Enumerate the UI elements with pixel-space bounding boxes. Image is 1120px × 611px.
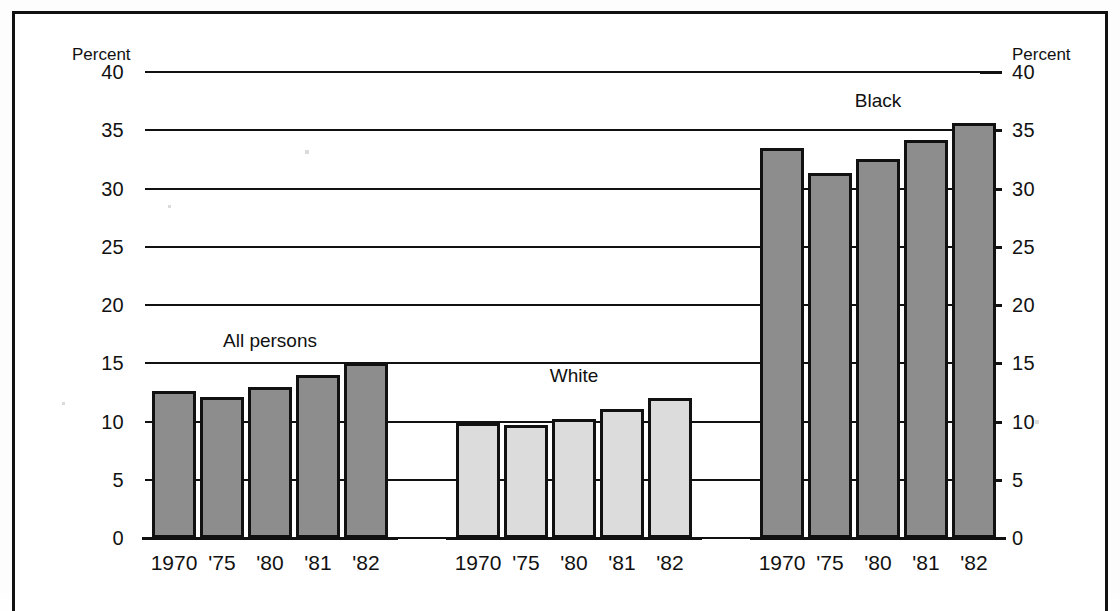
y-tick-label-right-35: 35 xyxy=(1012,120,1078,140)
x-tick-label: '82 xyxy=(630,552,710,573)
y-tick-label-left-15: 15 xyxy=(58,353,124,373)
y-tick-label-left-20: 20 xyxy=(58,295,124,315)
bar xyxy=(808,173,852,538)
y-tick-label-left-5: 5 xyxy=(58,470,124,490)
bar xyxy=(600,409,644,538)
scan-speck-0 xyxy=(305,150,309,154)
x-tick-label: '82 xyxy=(934,552,1014,573)
y-tick-label-left-0: 0 xyxy=(58,528,124,548)
bar xyxy=(760,148,804,538)
bar xyxy=(296,375,340,538)
gridline-40 xyxy=(145,71,980,73)
y-tick-label-left-25: 25 xyxy=(58,237,124,257)
bar xyxy=(504,425,548,538)
y-tick-label-right-0: 0 xyxy=(1012,528,1078,548)
bar xyxy=(856,159,900,538)
group-label-0: All persons xyxy=(170,331,370,350)
gridline-15 xyxy=(145,362,980,364)
gridline-30 xyxy=(145,188,980,190)
gridline-35 xyxy=(145,129,980,131)
percent-caption-left: Percent xyxy=(72,46,131,63)
y-tick-label-right-30: 30 xyxy=(1012,179,1078,199)
scan-speck-4 xyxy=(1035,420,1039,424)
y-tick-label-right-15: 15 xyxy=(1012,353,1078,373)
bar xyxy=(248,387,292,538)
y-tick-label-left-30: 30 xyxy=(58,179,124,199)
bar xyxy=(904,140,948,538)
y-tick-label-left-35: 35 xyxy=(58,120,124,140)
group-label-1: White xyxy=(474,366,674,385)
x-tick-label: '82 xyxy=(326,552,406,573)
y-tick-label-right-5: 5 xyxy=(1012,470,1078,490)
gridline-20 xyxy=(145,304,980,306)
percent-caption-right: Percent xyxy=(1012,46,1071,63)
scan-speck-1 xyxy=(168,205,171,208)
bar xyxy=(344,363,388,538)
y-tick-right-40 xyxy=(980,71,1002,74)
y-tick-label-left-10: 10 xyxy=(58,412,124,432)
bar xyxy=(152,391,196,538)
gridline-25 xyxy=(145,246,980,248)
y-tick-label-right-40: 40 xyxy=(1012,62,1078,82)
scan-speck-5 xyxy=(62,402,65,405)
bar xyxy=(952,123,996,538)
group-label-2: Black xyxy=(778,91,978,110)
bar xyxy=(200,397,244,538)
y-tick-label-right-25: 25 xyxy=(1012,237,1078,257)
y-tick-label-right-20: 20 xyxy=(1012,295,1078,315)
bar xyxy=(648,398,692,538)
y-tick-label-left-40: 40 xyxy=(58,62,124,82)
y-tick-label-right-10: 10 xyxy=(1012,412,1078,432)
bar xyxy=(552,419,596,538)
bar xyxy=(456,423,500,538)
